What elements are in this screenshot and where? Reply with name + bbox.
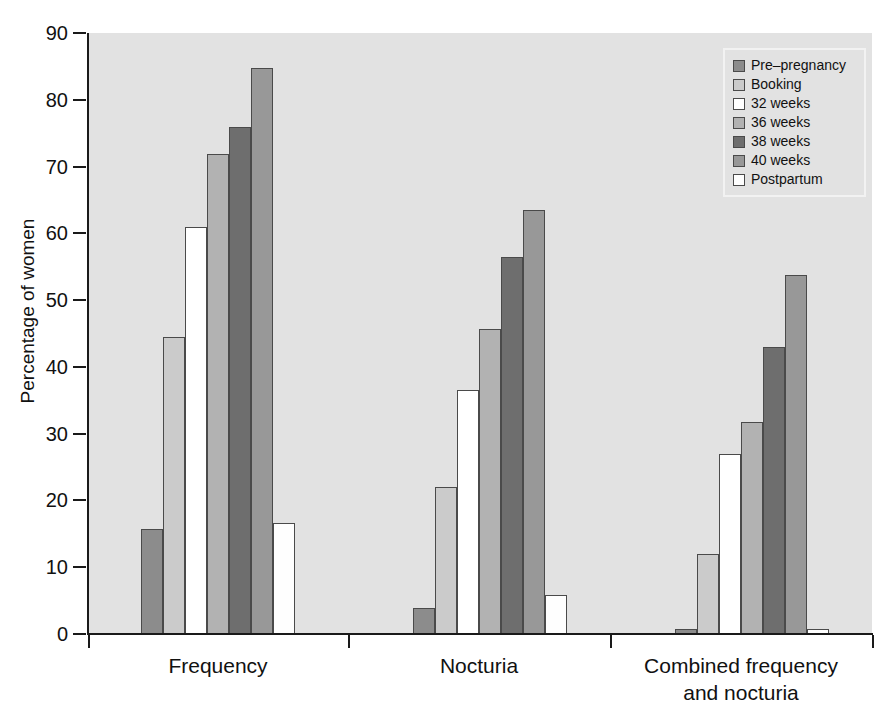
bar xyxy=(413,608,435,634)
bar xyxy=(229,127,251,635)
bar xyxy=(523,210,545,634)
bar xyxy=(141,529,163,635)
bar xyxy=(435,487,457,634)
x-axis-group-label-line: and nocturia xyxy=(610,679,872,706)
legend-item-label: 32 weeks xyxy=(751,95,810,112)
bar xyxy=(207,154,229,634)
legend-item-label: Postpartum xyxy=(751,171,823,188)
y-axis-tick-mark xyxy=(73,366,86,368)
x-axis-tick-mark xyxy=(610,635,612,648)
y-axis-tick-mark xyxy=(73,433,86,435)
y-axis-tick-label: 10 xyxy=(46,555,68,579)
y-axis-tick-mark xyxy=(73,566,86,568)
x-axis-group-label-line: Frequency xyxy=(88,652,348,679)
bar xyxy=(251,68,273,634)
legend-item-label: 40 weeks xyxy=(751,152,810,169)
bar-chart: 0102030405060708090 Percentage of women … xyxy=(0,0,896,712)
bar xyxy=(479,329,501,634)
legend-item-label: 38 weeks xyxy=(751,133,810,150)
y-axis-tick-label: 80 xyxy=(46,88,68,112)
x-axis-group-label-line: Combined frequency xyxy=(610,652,872,679)
legend-swatch-postpartum xyxy=(733,174,745,186)
y-axis-tick-mark xyxy=(73,32,86,34)
y-axis-line xyxy=(87,33,89,635)
x-axis-group-label-line: Nocturia xyxy=(348,652,610,679)
y-axis-tick-mark xyxy=(73,633,86,635)
legend-item: Postpartum xyxy=(733,171,858,188)
y-axis-title: Percentage of women xyxy=(17,161,39,461)
x-axis-group-label: Nocturia xyxy=(348,652,610,679)
bar xyxy=(185,227,207,634)
legend-item: 32 weeks xyxy=(733,95,858,112)
bar xyxy=(273,523,295,634)
legend-item: Pre–pregnancy xyxy=(733,57,858,74)
bar xyxy=(741,422,763,634)
bar xyxy=(785,275,807,634)
legend-item-label: Booking xyxy=(751,76,802,93)
y-axis-tick-label: 50 xyxy=(46,288,68,312)
y-axis-tick-label: 30 xyxy=(46,422,68,446)
y-axis-tick-mark xyxy=(73,99,86,101)
legend-swatch-pre-pregnancy xyxy=(733,60,745,72)
y-axis-tick-mark xyxy=(73,232,86,234)
legend-item: 40 weeks xyxy=(733,152,858,169)
x-axis-tick-mark xyxy=(88,635,90,648)
bar xyxy=(457,390,479,634)
y-axis-tick-mark xyxy=(73,299,86,301)
legend-item: 36 weeks xyxy=(733,114,858,131)
legend-swatch-40-weeks xyxy=(733,155,745,167)
bar xyxy=(163,337,185,634)
bar xyxy=(719,454,741,634)
legend-swatch-38-weeks xyxy=(733,136,745,148)
y-axis-tick-label: 70 xyxy=(46,155,68,179)
legend-rows: Pre–pregnancyBooking32 weeks36 weeks38 w… xyxy=(733,57,858,188)
bar xyxy=(763,347,785,634)
legend-item: Booking xyxy=(733,76,858,93)
legend-swatch-booking xyxy=(733,79,745,91)
bar xyxy=(501,257,523,634)
y-axis-tick-label: 20 xyxy=(46,488,68,512)
x-axis-tick-mark xyxy=(872,635,874,648)
y-axis-tick-mark xyxy=(73,499,86,501)
y-axis-tick-label: 0 xyxy=(57,622,68,646)
legend-swatch-32-weeks xyxy=(733,98,745,110)
x-axis-group-label: Frequency xyxy=(88,652,348,679)
legend-swatch-36-weeks xyxy=(733,117,745,129)
x-axis-group-label: Combined frequencyand nocturia xyxy=(610,652,872,706)
legend-item-label: 36 weeks xyxy=(751,114,810,131)
legend: Pre–pregnancyBooking32 weeks36 weeks38 w… xyxy=(723,48,866,197)
legend-item-label: Pre–pregnancy xyxy=(751,57,846,74)
y-axis-tick-mark xyxy=(73,166,86,168)
y-axis-tick-label: 40 xyxy=(46,355,68,379)
y-axis-tick-label: 60 xyxy=(46,221,68,245)
bar xyxy=(545,595,567,634)
x-axis-tick-mark xyxy=(348,635,350,648)
y-axis-tick-label: 90 xyxy=(46,21,68,45)
bar xyxy=(697,554,719,634)
legend-item: 38 weeks xyxy=(733,133,858,150)
x-axis-line xyxy=(87,633,873,635)
